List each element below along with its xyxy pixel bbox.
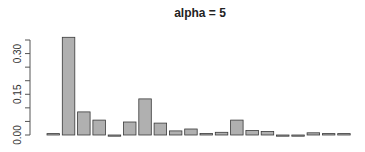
bar [124, 122, 137, 135]
bar [139, 99, 152, 135]
bar [93, 120, 106, 135]
bar [169, 131, 182, 135]
bar [47, 134, 60, 135]
bar [246, 130, 259, 135]
bar [200, 133, 213, 135]
bar [185, 129, 198, 135]
bar [154, 123, 167, 135]
y-axis: 0.000.150.30 [12, 40, 30, 145]
bar [277, 135, 290, 136]
bar [307, 133, 320, 135]
y-tick-label: 0.00 [12, 125, 23, 145]
bar [231, 120, 244, 135]
bar [108, 135, 121, 136]
bar [62, 37, 75, 135]
bar [261, 132, 274, 136]
bar-chart: 0.000.150.30 [0, 0, 365, 152]
bar [292, 135, 305, 136]
y-tick-label: 0.15 [12, 84, 23, 104]
bar [338, 134, 351, 135]
bars [47, 37, 350, 136]
bar [215, 132, 228, 135]
bar [322, 134, 335, 135]
y-tick-label: 0.30 [12, 43, 23, 63]
bar [78, 112, 91, 135]
